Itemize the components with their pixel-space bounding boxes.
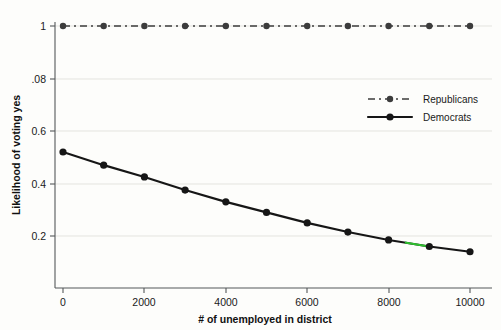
data-point [263, 209, 270, 216]
data-point [141, 173, 148, 180]
data-point [223, 23, 229, 29]
x-tick-label-2000: 2000 [132, 296, 156, 308]
legend-republicans-marker [387, 96, 393, 102]
x-axis-title: # of unemployed in district [198, 313, 332, 325]
y-tick-label-06: 0.6 [31, 125, 46, 137]
democrats-line [63, 152, 470, 252]
x-tick-label-6000: 6000 [295, 296, 319, 308]
x-tick-label-8000: 8000 [377, 296, 401, 308]
legend-label-republicans: Republicans [423, 94, 478, 105]
data-point [385, 236, 392, 243]
data-point [100, 162, 107, 169]
data-point [101, 23, 107, 29]
data-point [385, 23, 391, 29]
line-chart: 1 .08 0.6 0.4 0.2 0 2000 4000 6000 8000 … [0, 0, 501, 330]
data-point [60, 23, 66, 29]
y-tick-label-08: .08 [31, 73, 46, 85]
data-point [182, 186, 189, 193]
series-democrats [59, 148, 473, 255]
data-point [182, 23, 188, 29]
x-tick-label-10000: 10000 [455, 296, 484, 308]
data-point [426, 243, 433, 250]
x-tick-label-4000: 4000 [214, 296, 238, 308]
y-tick-label-02: 0.2 [31, 230, 46, 242]
y-tick-label-04: 0.4 [31, 178, 46, 190]
data-point [222, 198, 229, 205]
democrats-markers [59, 148, 473, 255]
data-point [263, 23, 269, 29]
data-point [304, 219, 311, 226]
data-point [344, 228, 351, 235]
x-tickmarks [63, 288, 470, 293]
legend: Republicans Democrats [368, 94, 478, 123]
chart-container: 1 .08 0.6 0.4 0.2 0 2000 4000 6000 8000 … [0, 0, 501, 330]
legend-label-democrats: Democrats [423, 112, 471, 123]
data-point [345, 23, 351, 29]
data-point [141, 23, 147, 29]
data-point [59, 148, 66, 155]
legend-democrats-marker [386, 113, 393, 120]
data-point [466, 248, 473, 255]
y-tickmarks [50, 26, 55, 236]
y-tick-label-1: 1 [40, 20, 46, 32]
data-point [304, 23, 310, 29]
data-point [426, 23, 432, 29]
green-highlight-segment [405, 243, 427, 247]
data-point [467, 23, 473, 29]
y-axis-title: Likelihood of voting yes [10, 95, 22, 215]
gridlines [55, 26, 492, 236]
x-tick-label-0: 0 [60, 296, 66, 308]
